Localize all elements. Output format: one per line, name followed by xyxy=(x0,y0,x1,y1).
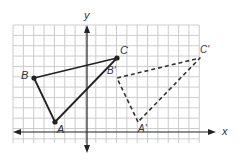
y-axis-down-arrow-icon xyxy=(84,145,90,153)
vertex-dot-b xyxy=(31,75,36,80)
coordinate-plane: y x A B C A' B' C' xyxy=(0,0,242,164)
vertex-label-a: A xyxy=(57,124,64,135)
triangle-image-outline xyxy=(117,58,200,122)
vertex-label-c: C xyxy=(120,45,128,56)
x-axis-right-arrow-icon xyxy=(208,129,216,135)
vertex-label-b-prime: B' xyxy=(107,66,116,76)
vertex-dot-c xyxy=(114,55,119,60)
axes xyxy=(13,25,216,153)
triangle-a-prime-b-prime-c-prime xyxy=(117,58,200,122)
graph-svg xyxy=(0,0,242,164)
x-axis-label: x xyxy=(222,126,228,137)
vertex-label-b: B xyxy=(21,70,28,81)
vertex-label-a-prime: A' xyxy=(138,124,147,134)
x-axis-left-arrow-icon xyxy=(13,129,21,135)
grid-lines xyxy=(13,25,199,143)
y-axis-up-arrow-icon xyxy=(84,25,90,33)
vertex-label-c-prime: C' xyxy=(200,45,209,55)
y-axis-label: y xyxy=(84,10,90,21)
